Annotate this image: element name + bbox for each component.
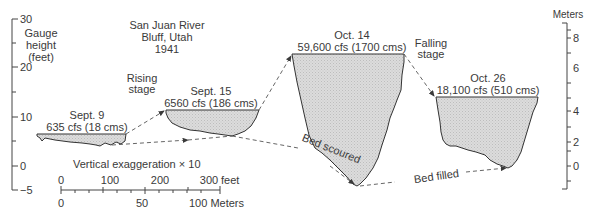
title-location: Bluff, Utah: [141, 31, 192, 43]
scale-feet-300: 300: [200, 174, 218, 186]
left-tick-10: 10: [20, 111, 32, 123]
section-discharge: 635 cfs (18 cms): [46, 121, 127, 133]
right-tick-6: 6: [573, 62, 579, 74]
right-tick-0: 0: [573, 160, 579, 172]
river-cross-section-diagram: 30 20 10 0 −5 Gauge height (feet) Meters…: [0, 0, 589, 215]
left-axis-label-2: height: [26, 39, 56, 51]
left-axis: 30 20 10 0 −5 Gauge height (feet): [12, 13, 58, 196]
right-tick-8: 8: [573, 32, 579, 44]
figure-title: San Juan River Bluff, Utah 1941: [129, 19, 205, 55]
left-tick-0: 0: [20, 160, 26, 172]
title-year: 1941: [155, 43, 179, 55]
scale-bar: 0 100 200 300 feet 0 50 100 Meters: [58, 174, 245, 209]
scale-meters-100: 100 Meters: [189, 197, 245, 209]
left-tick-30: 30: [20, 13, 32, 25]
scale-feet-200: 200: [151, 174, 169, 186]
left-axis-label-3: (feet): [28, 51, 54, 63]
section-date: Sept. 9: [70, 109, 105, 121]
section-discharge: 18,100 cfs (510 cms): [437, 84, 540, 96]
section-sept-15: Sept. 15 6560 cfs (186 cms): [164, 85, 259, 136]
section-date: Oct. 14: [334, 29, 369, 41]
right-tick-2: 2: [573, 136, 579, 148]
left-axis-label-1: Gauge: [24, 27, 57, 39]
section-discharge: 59,600 cfs (1700 cms): [298, 41, 407, 53]
right-axis-label: Meters: [553, 9, 584, 20]
section-oct-26: Oct. 26 18,100 cfs (510 cms): [436, 72, 539, 168]
scale-meters-50: 50: [136, 197, 148, 209]
right-axis: Meters 8 6 4 2 0: [553, 9, 584, 189]
section-oct-14: Oct. 14 59,600 cfs (1700 cms): [292, 29, 406, 186]
rising-stage-label-2: stage: [129, 83, 156, 95]
bed-filled-label: Bed filled: [413, 167, 459, 185]
section-date: Oct. 26: [470, 72, 505, 84]
section-discharge: 6560 cfs (186 cms): [164, 97, 258, 109]
scale-feet-100: 100: [101, 174, 119, 186]
left-tick-minus5: −5: [20, 184, 33, 196]
falling-stage-label-2: stage: [418, 48, 445, 60]
scale-feet-0: 0: [58, 174, 64, 186]
section-date: Sept. 15: [191, 85, 232, 97]
scale-meters-0: 0: [58, 197, 64, 209]
vertical-exaggeration-label: Vertical exaggeration × 10: [73, 158, 201, 170]
section-sept-9: Sept. 9 635 cfs (18 cms): [37, 109, 128, 146]
scale-feet-unit: feet: [221, 174, 239, 186]
title-river: San Juan River: [129, 19, 205, 31]
right-tick-4: 4: [573, 105, 579, 117]
